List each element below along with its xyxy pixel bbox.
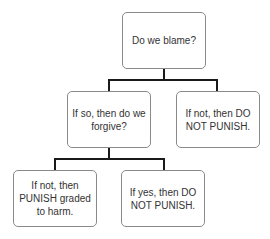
connector-to-forgive: [108, 79, 110, 91]
node-root-label: Do we blame?: [132, 34, 196, 47]
connector-to-yes-forgive: [163, 158, 165, 170]
connector-level1-bar: [108, 79, 218, 81]
node-no-blame: If not, then DO NOT PUNISH.: [176, 91, 260, 148]
node-no-forgive-label: If not, then PUNISH graded to harm.: [18, 179, 92, 218]
node-root: Do we blame?: [122, 12, 206, 69]
node-forgive: If so, then do we forgive?: [67, 91, 151, 148]
connector-to-no-blame: [216, 79, 218, 91]
node-yes-forgive: If yes, then DO NOT PUNISH.: [121, 170, 205, 227]
connector-level2-bar: [54, 158, 165, 160]
node-forgive-label: If so, then do we forgive?: [72, 107, 146, 133]
connector-to-no-forgive: [54, 158, 56, 170]
node-yes-forgive-label: If yes, then DO NOT PUNISH.: [126, 186, 200, 212]
node-no-forgive: If not, then PUNISH graded to harm.: [13, 170, 97, 227]
node-no-blame-label: If not, then DO NOT PUNISH.: [181, 107, 255, 133]
